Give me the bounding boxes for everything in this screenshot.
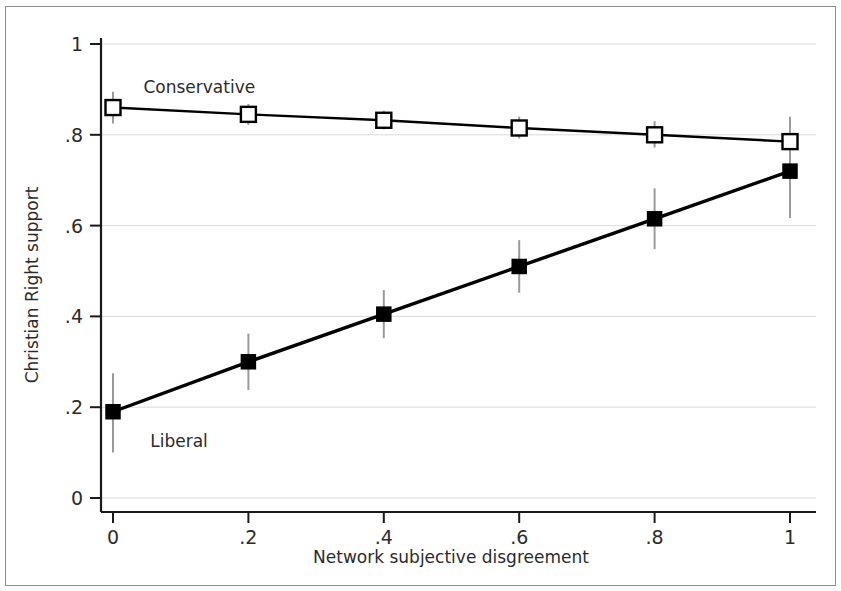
series-label-liberal: Liberal	[150, 431, 208, 451]
x-axis-title: Network subjective disgreement	[313, 547, 589, 567]
series-markers-group	[106, 100, 798, 419]
series-line-liberal	[113, 171, 790, 412]
error-bars-group	[113, 92, 790, 453]
x-tick-label-.8: .8	[646, 526, 664, 548]
x-tick-label-0: 0	[107, 526, 119, 548]
y-tick-label-.4: .4	[65, 305, 83, 327]
series-label-conservative: Conservative	[143, 77, 255, 97]
y-tick-label-0: 0	[71, 487, 83, 509]
marker-liberal-.6	[512, 259, 526, 273]
x-tick-label-1: 1	[784, 526, 796, 548]
y-axis-title: Christian Right support	[22, 186, 42, 383]
x-tick-label-.2: .2	[239, 526, 257, 548]
marker-liberal-1	[783, 164, 797, 178]
series-line-conservative	[113, 108, 790, 142]
marker-conservative-.2	[241, 107, 256, 122]
marker-liberal-.2	[241, 355, 255, 369]
y-tick-label-1: 1	[71, 33, 83, 55]
marker-liberal-.4	[377, 307, 391, 321]
x-axis-ticks-group: 0.2.4.6.81	[107, 512, 796, 548]
y-axis-ticks-group: 0.2.4.6.81	[65, 33, 101, 509]
marker-conservative-.4	[376, 113, 391, 128]
marker-liberal-0	[106, 405, 120, 419]
x-tick-label-.6: .6	[510, 526, 528, 548]
marker-liberal-.8	[648, 212, 662, 226]
marker-conservative-.8	[647, 127, 662, 142]
y-tick-label-.2: .2	[65, 396, 83, 418]
y-tick-label-.8: .8	[65, 124, 83, 146]
line-chart: 0.2.4.6.81 0.2.4.6.81 ConservativeLibera…	[0, 0, 841, 591]
figure-container: 0.2.4.6.81 0.2.4.6.81 ConservativeLibera…	[0, 0, 841, 591]
x-tick-label-.4: .4	[375, 526, 393, 548]
marker-conservative-1	[783, 134, 798, 149]
marker-conservative-.6	[512, 120, 527, 135]
axes-group	[101, 38, 816, 512]
marker-conservative-0	[106, 100, 121, 115]
y-tick-label-.6: .6	[65, 215, 83, 237]
series-lines-group	[113, 108, 790, 412]
